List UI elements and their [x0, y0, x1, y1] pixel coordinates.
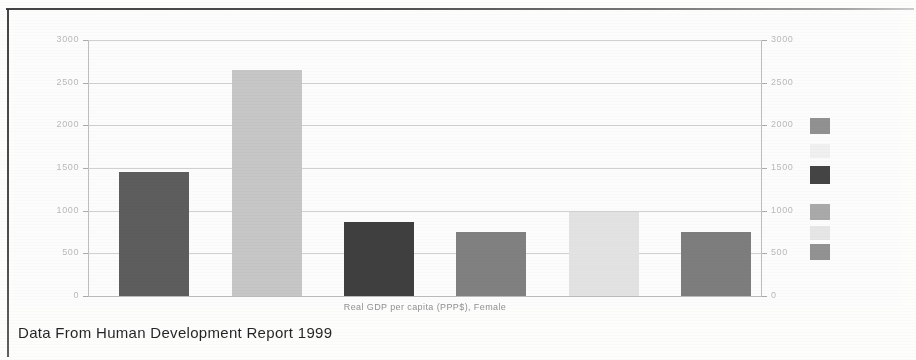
legend-item-1 [810, 118, 830, 134]
y-axis-left-tick-label: 2000 [57, 120, 79, 129]
y-axis-right-tick-label: 0 [771, 291, 777, 300]
bar-3 [344, 222, 414, 296]
legend-item-4 [810, 204, 830, 220]
legend-swatch [810, 204, 830, 220]
y-axis-tick-mark [762, 211, 767, 212]
y-axis-right-tick-label: 2500 [771, 78, 793, 87]
y-axis-right-tick-label: 500 [771, 248, 788, 257]
chart-container: 300025002000150010005000 300025002000150… [14, 14, 900, 306]
y-axis-right-tick-label: 2000 [771, 120, 793, 129]
plot-area: 300025002000150010005000 300025002000150… [88, 40, 762, 296]
page-border-left [7, 9, 9, 357]
legend-swatch [810, 226, 830, 240]
y-axis-left-tick-label: 500 [62, 248, 79, 257]
y-axis-tick-mark [762, 125, 767, 126]
gridline [88, 296, 762, 297]
legend-swatch [810, 118, 830, 134]
page-border-top [6, 8, 914, 10]
y-axis-tick-mark [762, 168, 767, 169]
y-axis-right-tick-label: 1500 [771, 163, 793, 172]
y-axis-tick-mark [83, 296, 88, 297]
y-axis-left-tick-label: 3000 [57, 35, 79, 44]
chart-caption: Data From Human Development Report 1999 [18, 324, 332, 341]
bar-4 [456, 232, 526, 296]
y-axis-left-tick-label: 0 [73, 291, 79, 300]
legend-swatch [810, 166, 830, 184]
chart-legend [810, 118, 834, 260]
legend-item-3 [810, 166, 830, 184]
legend-item-6 [810, 244, 830, 260]
legend-item-5 [810, 226, 830, 240]
bar-2 [232, 70, 302, 296]
bar-series [88, 40, 762, 296]
bar-1 [119, 172, 189, 296]
y-axis-tick-mark [762, 40, 767, 41]
y-axis-tick-mark [762, 253, 767, 254]
legend-item-2 [810, 144, 830, 158]
y-axis-right-tick-label: 1000 [771, 206, 793, 215]
y-axis-tick-mark [762, 296, 767, 297]
legend-swatch [810, 144, 830, 158]
bar-5 [569, 212, 639, 296]
y-axis-right-tick-label: 3000 [771, 35, 793, 44]
y-axis-left-tick-label: 1000 [57, 206, 79, 215]
x-axis-title: Real GDP per capita (PPP$), Female [88, 302, 762, 312]
y-axis-tick-mark [762, 83, 767, 84]
legend-swatch [810, 244, 830, 260]
y-axis-left-tick-label: 2500 [57, 78, 79, 87]
y-axis-left-tick-label: 1500 [57, 163, 79, 172]
bar-6 [681, 232, 751, 296]
